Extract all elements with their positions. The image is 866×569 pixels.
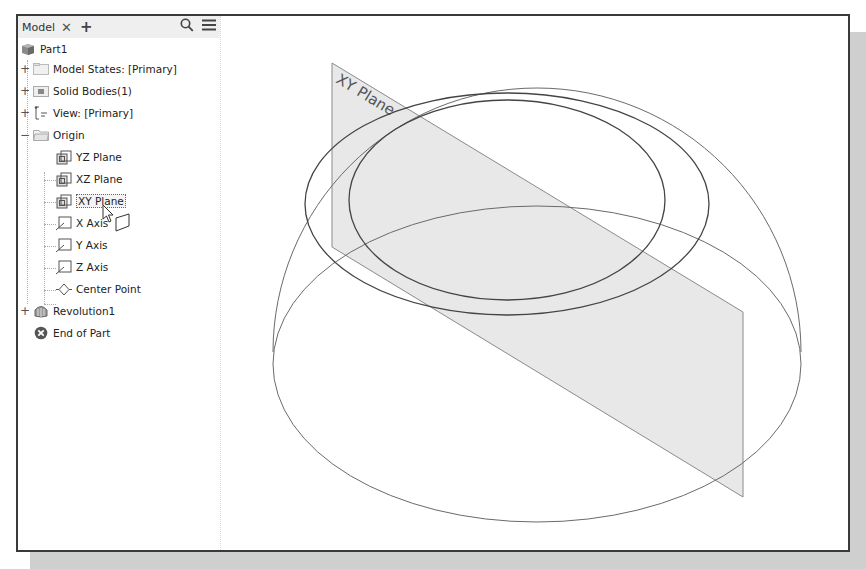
hamburger-menu-icon[interactable] (202, 19, 216, 34)
expand-toggle[interactable]: + (20, 304, 30, 318)
tree-item-y-axis[interactable]: Y Axis (56, 236, 108, 254)
tree-guide (44, 172, 45, 304)
part-cube-icon (20, 42, 36, 56)
plane-icon (56, 150, 72, 164)
tree-guide (44, 224, 56, 225)
tree-item-view[interactable]: + View: [Primary] (20, 104, 133, 122)
tree-item-solid-bodies[interactable]: + Solid Bodies(1) (20, 82, 132, 100)
tree-item-label: Z Axis (76, 261, 108, 273)
view-rep-icon (33, 106, 49, 120)
axis-icon (56, 238, 72, 252)
search-icon[interactable] (180, 18, 194, 35)
tree-item-label: End of Part (53, 327, 110, 339)
tree-guide (44, 268, 56, 269)
plane-icon (56, 172, 72, 186)
tab-model[interactable]: Model (22, 21, 55, 34)
open-folder-icon (33, 128, 49, 142)
tree-item-center-point[interactable]: Center Point (56, 280, 141, 298)
tree-item-label: View: [Primary] (53, 107, 133, 119)
tree-item-x-axis[interactable]: X Axis (56, 214, 108, 232)
tree-item-label: Center Point (76, 283, 141, 295)
tree-item-label: XZ Plane (76, 173, 123, 185)
browser-header: Model ✕ + (18, 16, 220, 38)
tree-item-yz-plane[interactable]: YZ Plane (56, 148, 122, 166)
tree-item-label: Origin (53, 129, 85, 141)
tree-item-revolution1[interactable]: + Revolution1 (20, 302, 115, 320)
tree-item-label: Part1 (40, 43, 67, 55)
folder-icon (33, 62, 49, 76)
tree-item-label: YZ Plane (76, 151, 122, 163)
tree-item-model-states[interactable]: + Model States: [Primary] (20, 60, 177, 78)
mouse-cursor-icon (102, 204, 136, 234)
plus-icon[interactable]: + (80, 18, 93, 36)
expand-toggle[interactable]: + (20, 62, 30, 76)
tree-item-label: Solid Bodies(1) (53, 85, 132, 97)
xy-plane-surface[interactable] (332, 63, 743, 497)
tree-guide (44, 202, 56, 203)
close-icon[interactable]: ✕ (61, 20, 72, 35)
axis-icon (56, 260, 72, 274)
tree-item-label: Model States: [Primary] (53, 63, 177, 75)
3d-model-view: XY Plane (221, 16, 848, 550)
tree-item-part1[interactable]: Part1 (20, 40, 67, 58)
tree-item-xz-plane[interactable]: XZ Plane (56, 170, 123, 188)
tree-guide (44, 246, 56, 247)
axis-icon (56, 216, 72, 230)
tree-item-end-of-part[interactable]: End of Part (33, 324, 110, 342)
plane-icon (56, 194, 72, 208)
expand-toggle[interactable]: + (20, 84, 30, 98)
end-of-part-icon (33, 326, 49, 340)
tree-item-label: Revolution1 (53, 305, 115, 317)
expand-toggle[interactable]: + (20, 106, 30, 120)
tree-item-origin[interactable]: − Origin (20, 126, 85, 144)
tree-guide (44, 290, 56, 291)
center-point-icon (56, 282, 72, 296)
application-window: Model ✕ + (16, 14, 850, 552)
solid-bodies-folder-icon (33, 84, 49, 98)
tree-item-label: Y Axis (76, 239, 108, 251)
graphics-viewport[interactable]: XY Plane (221, 16, 848, 550)
tree-guide (44, 180, 56, 181)
model-browser-panel: Model ✕ + (18, 16, 221, 550)
revolve-feature-icon (33, 304, 49, 318)
tree-item-z-axis[interactable]: Z Axis (56, 258, 108, 276)
collapse-toggle[interactable]: − (20, 128, 30, 142)
